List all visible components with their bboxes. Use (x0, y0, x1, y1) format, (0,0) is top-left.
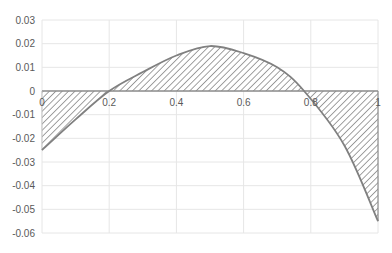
y-tick-label: -0.04 (12, 180, 35, 191)
x-tick-label: 0.6 (237, 97, 251, 108)
y-tick-label: 0.03 (16, 15, 36, 26)
y-tick-label: -0.06 (12, 228, 35, 239)
chart: 0.030.020.010-0.01-0.02-0.03-0.04-0.05-0… (0, 0, 392, 253)
hatched-fill (42, 46, 378, 221)
y-tick-label: -0.05 (12, 204, 35, 215)
y-tick-label: -0.03 (12, 157, 35, 168)
y-tick-label: 0 (29, 86, 35, 97)
y-tick-label: 0.01 (16, 62, 36, 73)
y-tick-label: -0.01 (12, 109, 35, 120)
y-tick-label: 0.02 (16, 38, 36, 49)
x-tick-label: 0.2 (102, 97, 116, 108)
y-tick-label: -0.02 (12, 133, 35, 144)
x-tick-label: 0.8 (304, 97, 318, 108)
hatched-area (42, 46, 378, 221)
x-tick-label: 0.4 (169, 97, 183, 108)
y-axis-labels: 0.030.020.010-0.01-0.02-0.03-0.04-0.05-0… (12, 15, 35, 239)
x-tick-label: 1 (375, 97, 381, 108)
x-tick-label: 0 (39, 97, 45, 108)
